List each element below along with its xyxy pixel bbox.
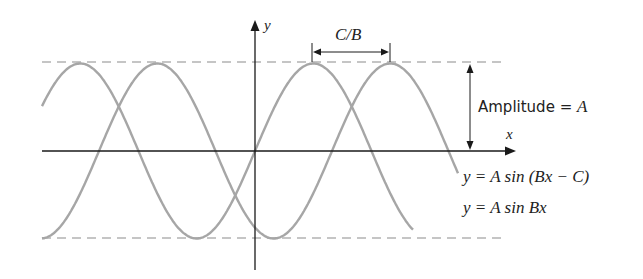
sine-shift-diagram: y x C/B Amplitude = A y = A sin (Bx − C)… <box>0 0 643 279</box>
y-axis-label: y <box>262 17 271 33</box>
phase-arrow-right-icon <box>381 49 389 56</box>
phase-arrow-left-icon <box>313 49 321 56</box>
x-axis-label: x <box>505 126 513 142</box>
x-axis-arrow-icon <box>505 147 516 156</box>
amplitude-label: Amplitude = A <box>478 97 588 116</box>
amplitude-arrow-down-icon <box>467 141 474 150</box>
equation-base: y = A sin Bx <box>461 198 547 217</box>
y-axis-arrow-icon <box>251 20 260 31</box>
phase-shift-label: C/B <box>335 25 362 44</box>
equation-shifted: y = A sin (Bx − C) <box>461 167 590 186</box>
amplitude-arrow-up-icon <box>467 64 474 73</box>
